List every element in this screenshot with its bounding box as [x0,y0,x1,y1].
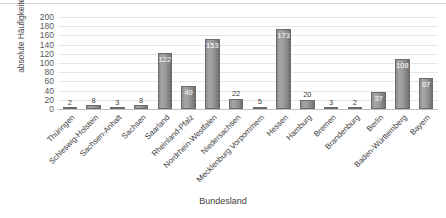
bar-slot: 49 [177,17,201,109]
bar-value-label: 5 [258,98,262,106]
x-label-slot: Sachsen-Anhalt [106,111,130,189]
y-tick-label-180: 180 [40,22,54,31]
bar-value-label: 122 [159,56,172,64]
bar[interactable]: 3 [110,107,125,109]
x-label-slot: Mecklenburg Vorpommern [248,111,272,189]
bar[interactable]: 2 [63,107,78,109]
chart-frame-top-border [0,3,446,4]
bar-slot: 2 [58,17,82,109]
bar-value-label: 2 [353,99,357,107]
bar[interactable]: 49 [181,86,196,109]
gridline-0: 0 [58,109,438,110]
bar[interactable]: 5 [253,107,268,109]
x-tick-label: Berlin [365,113,385,133]
bar[interactable]: 153 [205,39,220,109]
bar-value-label: 67 [422,81,430,89]
bar-value-label: 22 [232,90,240,98]
bar-slot: 20 [296,17,320,109]
bar-slot: 2 [343,17,367,109]
x-axis-tick-labels: ThüringenSchleswig-HolsteinSachsen-Anhal… [58,111,438,189]
y-axis-title: absolute Häufigkeiten [16,0,26,87]
y-tick-label-0: 0 [49,105,54,114]
x-axis-title: Bundesland [0,196,446,206]
bar[interactable]: 173 [276,29,291,109]
bar[interactable]: 20 [300,100,315,109]
y-tick-label-140: 140 [40,40,54,49]
bar[interactable]: 8 [86,105,101,109]
bar-chart: absolute Häufigkeiten 020406080100120140… [0,0,446,218]
y-tick-label-160: 160 [40,31,54,40]
x-label-slot: Hessen [272,111,296,189]
x-label-slot: Bayern [414,111,438,189]
bar-slot: 8 [82,17,106,109]
plot-area: 020406080100120140160180200 283812249153… [58,17,438,109]
bar-value-label: 108 [396,62,409,70]
bar-value-label: 49 [184,89,192,97]
bar-value-label: 3 [115,99,119,107]
bar-value-label: 8 [139,97,143,105]
bar-value-label: 3 [329,99,333,107]
bar-value-label: 173 [277,32,290,40]
y-tick-label-20: 20 [45,96,54,105]
bar-value-label: 8 [92,97,96,105]
bar[interactable]: 37 [371,92,386,109]
y-tick-label-100: 100 [40,59,54,68]
x-label-slot: Hamburg [296,111,320,189]
bar[interactable]: 3 [324,107,339,109]
y-tick-label-80: 80 [45,68,54,77]
bar-value-label: 153 [206,42,219,50]
x-label-slot: Brandenburg [343,111,367,189]
bar-slot: 153 [201,17,225,109]
bar-slot: 173 [272,17,296,109]
bar-slot: 3 [106,17,130,109]
bar-slot: 67 [414,17,438,109]
x-label-slot: Bremen [319,111,343,189]
x-label-slot: Sachsen [129,111,153,189]
bar-slot: 3 [319,17,343,109]
bar-slot: 37 [367,17,391,109]
bar-series: 28381224915322517320323710867 [58,17,438,109]
y-tick-label-40: 40 [45,86,54,95]
bar[interactable]: 2 [348,107,363,109]
bar-slot: 122 [153,17,177,109]
y-tick-label-200: 200 [40,13,54,22]
bar-slot: 5 [248,17,272,109]
bar-value-label: 2 [68,99,72,107]
bar[interactable]: 22 [229,99,244,109]
bar-slot: 8 [129,17,153,109]
bar[interactable]: 8 [134,105,149,109]
y-tick-label-60: 60 [45,77,54,86]
x-label-slot: Baden-Württemberg [391,111,415,189]
bar-value-label: 37 [374,95,382,103]
bar[interactable]: 108 [395,59,410,109]
bar[interactable]: 122 [158,53,173,109]
bar-value-label: 20 [303,91,311,99]
bar-slot: 22 [224,17,248,109]
y-tick-label-120: 120 [40,50,54,59]
bar-slot: 108 [391,17,415,109]
bar[interactable]: 67 [419,78,434,109]
